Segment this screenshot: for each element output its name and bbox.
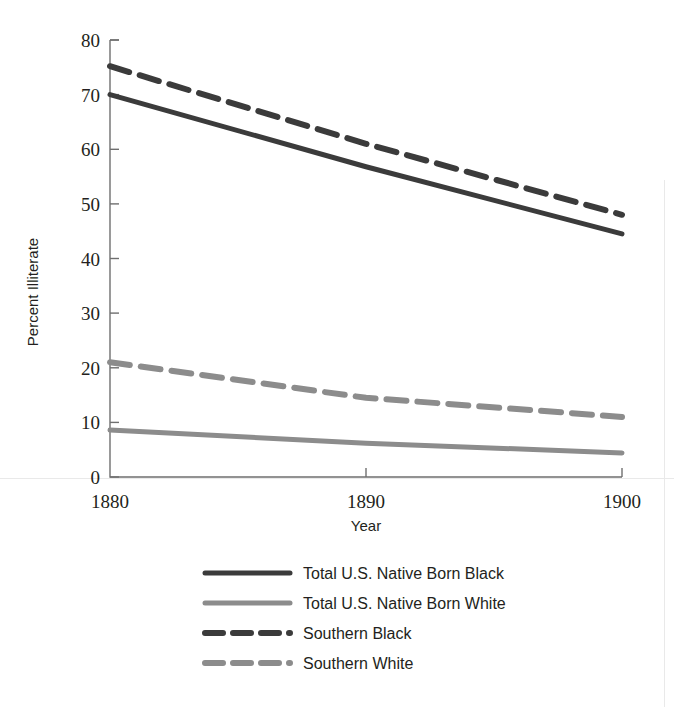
y-axis-title: Percent Illiterate bbox=[24, 238, 41, 346]
legend-label: Total U.S. Native Born Black bbox=[303, 565, 505, 582]
legend-label: Southern Black bbox=[303, 625, 413, 642]
y-tick-label-30: 30 bbox=[81, 303, 100, 324]
y-tick-label-80: 80 bbox=[81, 30, 100, 51]
y-tick-label-60: 60 bbox=[81, 139, 100, 160]
y-tick-label-50: 50 bbox=[81, 194, 100, 215]
chart-canvas: 80 70 60 50 40 30 20 10 0 1880 1890 1900… bbox=[0, 0, 674, 707]
x-tick-label-1880: 1880 bbox=[91, 491, 129, 512]
illiteracy-line-chart-figure: 80 70 60 50 40 30 20 10 0 1880 1890 1900… bbox=[0, 0, 674, 707]
y-tick-label-70: 70 bbox=[81, 85, 100, 106]
y-tick-label-40: 40 bbox=[81, 249, 100, 270]
x-axis-title: Year bbox=[351, 517, 381, 534]
y-tick-label-10: 10 bbox=[81, 412, 100, 433]
x-tick-label-1890: 1890 bbox=[347, 491, 385, 512]
x-tick-label-1900: 1900 bbox=[603, 491, 641, 512]
legend-label: Total U.S. Native Born White bbox=[303, 595, 506, 612]
legend-label: Southern White bbox=[303, 655, 413, 672]
y-tick-label-0: 0 bbox=[91, 467, 101, 488]
y-tick-label-20: 20 bbox=[81, 358, 100, 379]
